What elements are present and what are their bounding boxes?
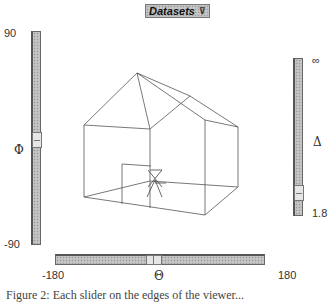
figure-caption: Figure 2: Each slider on the edges of th…	[6, 288, 244, 303]
